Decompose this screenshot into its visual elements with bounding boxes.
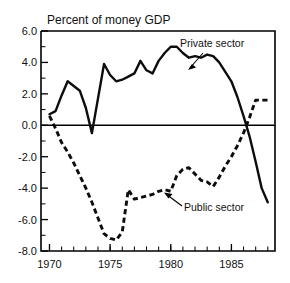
chart-title: Percent of money GDP: [47, 13, 170, 27]
x-tick-label: 1980: [159, 258, 183, 270]
y-tick-label: -8.0: [18, 245, 37, 257]
y-tick-label: 0.0: [22, 119, 37, 131]
annotation-label-public-sector: Public sector: [184, 201, 245, 213]
annotation-private-sector: Private sector: [180, 37, 245, 70]
annotation-label-private-sector: Private sector: [180, 37, 245, 49]
x-tick-label: 1985: [219, 258, 243, 270]
y-tick-label: -6.0: [18, 214, 37, 226]
x-axis-tick-labels: 1970 1975 1980 1985: [37, 258, 243, 270]
arrowhead-private-sector: [188, 64, 196, 70]
chart-figure: Percent of money GDP 6.: [0, 0, 290, 283]
x-tick-label: 1970: [37, 258, 61, 270]
y-tick-label: 2.0: [22, 88, 37, 100]
y-axis-tick-labels: 6.0 4.0 2.0 0.0 -2.0 -4.0 -6.0 -8.0: [18, 25, 37, 257]
y-tick-label: 4.0: [22, 56, 37, 68]
x-axis-major-ticks: [49, 244, 231, 251]
chart-canvas: Percent of money GDP 6.: [0, 0, 290, 283]
x-tick-label: 1975: [98, 258, 122, 270]
series-line-public-sector: [49, 100, 267, 240]
y-tick-label: 6.0: [22, 25, 37, 37]
annotation-public-sector: Public sector: [164, 193, 245, 214]
y-tick-label: -2.0: [18, 151, 37, 163]
y-tick-label: -4.0: [18, 182, 37, 194]
